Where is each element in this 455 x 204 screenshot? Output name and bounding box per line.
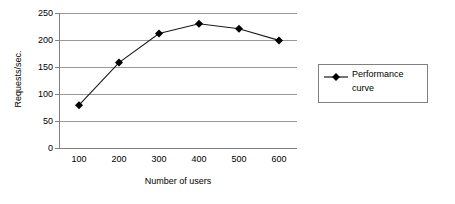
x-tick-label-500: 500 [219, 155, 259, 164]
y-tick-label-150: 150 [27, 63, 53, 72]
y-tick-label-200: 200 [27, 36, 53, 45]
x-tick-label-100: 100 [59, 155, 99, 164]
axis-lines [59, 13, 297, 149]
x-tick-label-400: 400 [179, 155, 219, 164]
data-point-300 [155, 30, 163, 38]
x-tick-label-600: 600 [259, 155, 299, 164]
legend: Performance curve [318, 64, 428, 103]
x-tick-label-200: 200 [99, 155, 139, 164]
x-tick-label-300: 300 [139, 155, 179, 164]
performance-line-chart: 250 200 150 100 50 0 100 200 300 400 500… [0, 0, 455, 204]
y-axis-title: Requests/sec. [13, 29, 23, 129]
diamond-marker-icon [323, 69, 349, 81]
legend-entry-performance-curve[interactable]: Performance curve [319, 65, 429, 104]
data-line-performance-curve [79, 24, 279, 105]
legend-marker-svg [323, 71, 349, 83]
y-tick-label-50: 50 [27, 117, 53, 126]
data-point-600 [275, 36, 283, 44]
legend-label-line-2: curve [352, 81, 426, 95]
legend-label: Performance curve [352, 67, 426, 95]
y-tick-label-100: 100 [27, 90, 53, 99]
y-axis-ticks [55, 14, 59, 149]
y-tick-label-0: 0 [27, 144, 53, 153]
data-point-500 [235, 25, 243, 33]
data-point-400 [195, 20, 203, 28]
data-point-markers [75, 20, 283, 109]
gridlines [59, 14, 297, 122]
legend-label-line-1: Performance [352, 67, 426, 81]
chart-screenshot: 250 200 150 100 50 0 100 200 300 400 500… [0, 0, 455, 204]
x-axis-title: Number of users [59, 176, 297, 186]
y-tick-label-250: 250 [27, 9, 53, 18]
